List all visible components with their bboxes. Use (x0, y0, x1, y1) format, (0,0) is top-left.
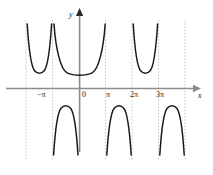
curve-branch-upper-3 (133, 24, 157, 73)
curve-branch-upper-1 (27, 24, 51, 73)
curve-branch-lower-2 (107, 106, 131, 155)
y-axis-arrow (76, 8, 83, 16)
y-axis-label: y (69, 11, 73, 19)
x-axis-label: x (198, 92, 202, 100)
curve-branch-lower-3 (160, 106, 184, 155)
y-axis (76, 8, 83, 152)
curve-branch-lower-1 (54, 106, 78, 155)
x-tick-label-pi: π (106, 91, 110, 99)
x-tick-label-2pi: 2π (130, 91, 138, 99)
x-axis (6, 85, 201, 92)
plot-canvas (0, 0, 213, 175)
x-tick-label-zero: 0 (82, 91, 86, 99)
x-tick-label-neg-pi: −π (37, 91, 46, 99)
x-tick-label-3pi: 3π (156, 91, 164, 99)
figure-sec-graph: −π 0 π 2π 3π x y (0, 0, 213, 175)
